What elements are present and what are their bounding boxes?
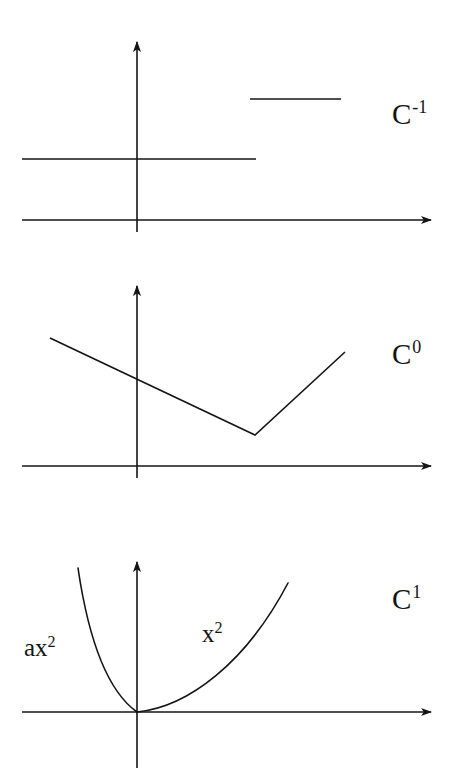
panel-label-c-one: C1 xyxy=(392,583,421,614)
panel-label-base: C xyxy=(392,338,411,370)
panel-label-c-zero: C0 xyxy=(392,338,421,369)
panel-label-base: C xyxy=(392,98,411,130)
panel-c-zero xyxy=(22,286,431,478)
curve-label-base: ax xyxy=(24,634,48,661)
panel-label-c-minus-1: C-1 xyxy=(392,98,427,129)
panel-label-base: C xyxy=(392,583,411,615)
curve-label-ax-squared: ax2 xyxy=(24,634,56,660)
left-parabola-ax2-curve xyxy=(78,568,137,712)
curve-label-x-squared: x2 xyxy=(202,620,223,646)
panel-label-exponent: -1 xyxy=(412,97,427,117)
figure-canvas: C-1 C0 C1 ax2 x2 xyxy=(0,0,461,772)
panel-c-minus-1 xyxy=(22,42,431,232)
panel-c-one xyxy=(22,562,431,768)
right-parabola-x2-curve xyxy=(137,583,288,712)
curve-label-exponent: 2 xyxy=(215,619,223,636)
curve-label-base: x xyxy=(202,620,215,647)
v-shape-curve xyxy=(50,338,345,435)
panel-label-exponent: 0 xyxy=(412,337,421,357)
panel-label-exponent: 1 xyxy=(412,582,421,602)
curve-label-exponent: 2 xyxy=(48,633,56,650)
